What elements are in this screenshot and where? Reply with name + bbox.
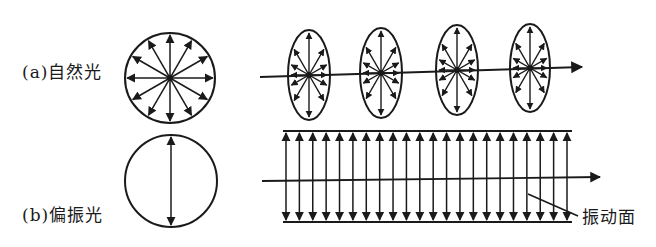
polarized-light-circle (125, 135, 217, 227)
natural-light-beam (260, 24, 582, 120)
polarization-diagram (0, 0, 656, 247)
polarized-light-beam (262, 131, 600, 222)
natural-light-circle (125, 33, 215, 123)
